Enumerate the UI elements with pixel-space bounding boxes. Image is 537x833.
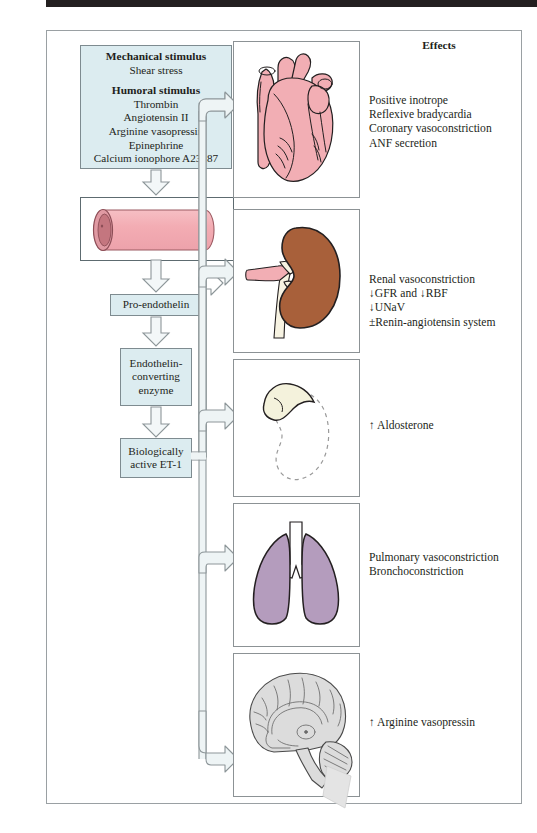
effect-item: Coronary vasoconstriction bbox=[369, 122, 529, 136]
figure-frame: Mechanical stimulus Shear stress Humoral… bbox=[46, 30, 522, 804]
arrow-stimulus-to-vessel bbox=[142, 170, 170, 196]
pathway-box-converting-enzyme-label: Endothelin- converting enzyme bbox=[130, 357, 183, 397]
organ-panel-kidney bbox=[233, 209, 360, 353]
organ-panel-brain bbox=[233, 653, 360, 797]
effect-item: Reflexive bradycardia bbox=[369, 108, 529, 122]
effects-list-brain: ↑ Arginine vasopressin bbox=[369, 716, 529, 730]
page-curl-artifact bbox=[321, 766, 361, 810]
pathway-box-active-et1: Biologically active ET-1 bbox=[120, 438, 192, 478]
effect-item: Positive inotrope bbox=[369, 94, 529, 108]
mechanical-stimulus-item: Shear stress bbox=[81, 64, 231, 78]
pathway-box-pro-endothelin-label: Pro-endothelin bbox=[123, 298, 190, 311]
effects-list-kidney: Renal vasoconstriction ↓GFR and ↓RBF ↓UN… bbox=[369, 273, 529, 330]
effects-list-adrenal: ↑ Aldosterone bbox=[369, 419, 529, 433]
organ-panel-heart bbox=[233, 41, 360, 198]
heart-icon bbox=[234, 42, 357, 195]
effect-item: ±Renin-angiotensin system bbox=[369, 316, 529, 330]
page-top-rule bbox=[46, 0, 537, 7]
pathway-box-active-et1-label: Biologically active ET-1 bbox=[128, 445, 183, 472]
effect-item: Bronchoconstriction bbox=[369, 565, 529, 579]
arrow-proendothelin-to-ece bbox=[142, 317, 170, 347]
et1-to-trunk-connector bbox=[191, 449, 207, 469]
effect-item: ANF secretion bbox=[369, 137, 529, 151]
effect-item: Renal vasoconstriction bbox=[369, 273, 529, 287]
kidney-icon bbox=[234, 210, 357, 350]
arrow-vessel-to-proendothelin bbox=[142, 260, 170, 293]
effects-column-header: Effects bbox=[369, 39, 509, 51]
effect-item: ↑ Arginine vasopressin bbox=[369, 716, 529, 730]
organ-panel-lungs bbox=[233, 503, 360, 647]
adrenal-gland-icon bbox=[234, 360, 357, 494]
pathway-box-converting-enzyme: Endothelin- converting enzyme bbox=[120, 348, 192, 406]
mechanical-stimulus-header: Mechanical stimulus bbox=[81, 50, 231, 64]
lungs-icon bbox=[234, 504, 357, 644]
effect-item: ↓UNaV bbox=[369, 301, 529, 315]
effect-item: ↓GFR and ↓RBF bbox=[369, 287, 529, 301]
effects-list-heart: Positive inotrope Reflexive bradycardia … bbox=[369, 94, 529, 151]
effects-list-lungs: Pulmonary vasoconstriction Bronchoconstr… bbox=[369, 551, 529, 579]
organ-panel-adrenal bbox=[233, 359, 360, 497]
effect-item: Pulmonary vasoconstriction bbox=[369, 551, 529, 565]
effect-item: ↑ Aldosterone bbox=[369, 419, 529, 433]
arrow-ece-to-et1 bbox=[142, 407, 170, 438]
